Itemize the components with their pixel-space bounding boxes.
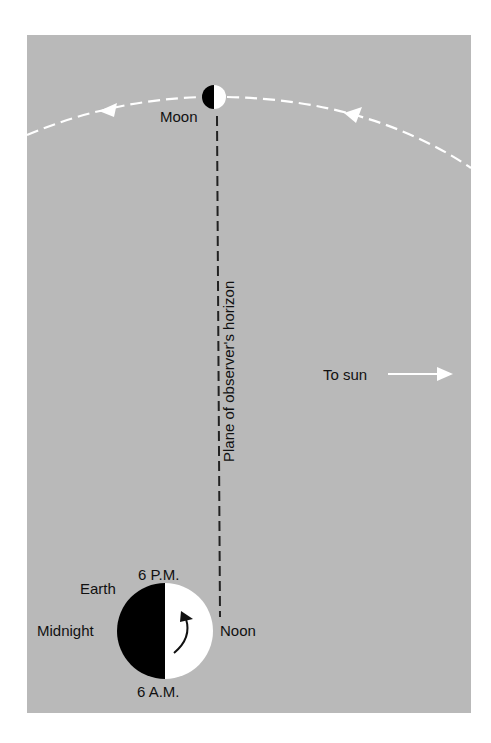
noon-label: Noon: [220, 622, 256, 639]
moon-icon: [202, 85, 226, 109]
six-am-label: 6 A.M.: [137, 683, 180, 700]
earth-icon: [117, 583, 213, 679]
orbit-arrow-left-icon: [99, 103, 117, 117]
moon-orbit-path-right: [227, 97, 471, 168]
midnight-label: Midnight: [37, 622, 95, 639]
six-pm-label: 6 P.M.: [138, 566, 179, 583]
earth-label: Earth: [80, 580, 116, 597]
to-sun-label: To sun: [323, 366, 367, 383]
to-sun-arrow-icon: [388, 367, 453, 381]
moon-label: Moon: [160, 108, 198, 125]
horizon-label: Plane of observer's horizon: [220, 281, 237, 462]
moon-phase-diagram: Moon Plane of observer's horizon To sun …: [0, 0, 491, 743]
orbit-arrow-right-icon: [344, 107, 362, 123]
